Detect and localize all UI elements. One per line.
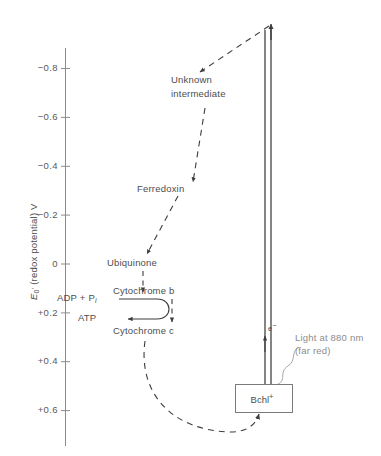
arrow-ferredoxin-to-ubiquinone [147,196,178,254]
y-axis [61,48,70,446]
tick-label-plus-0-2: +0.2 [12,307,58,318]
tick-label-plus-0-4: +0.4 [12,355,58,366]
node-ubiquinone: Ubiquinone [107,257,157,268]
tick-label-minus-0-6: −0.6 [12,111,58,122]
node-cytochrome-c: Cytochrome c [113,325,174,336]
node-cytochrome-b: Cytochrome b [113,285,175,296]
light-source-label: Light at 880 nm (far red) [295,331,364,357]
bchl-label: Bchl+ [251,392,274,405]
light-line1: Light at 880 nm [295,331,364,344]
label-adp-pi: ADP + Pi [57,292,97,304]
node-unknown-intermediate-line1: Unknown [171,74,212,85]
atp-synthesis-loop [119,299,169,319]
node-unknown-intermediate-line2: intermediate [171,88,226,99]
label-atp: ATP [78,312,96,323]
electron-label: e− [268,322,276,333]
bchl-charge: + [269,392,273,401]
arrow-excited-to-unknown [200,26,269,72]
tick-label-minus-0-2: −0.2 [12,209,58,220]
adp-pi-subscript: i [95,297,97,304]
tick-label-minus-0-8: −0.8 [12,62,58,73]
bchl-name: Bchl [251,394,269,405]
light-line2: (far red) [295,344,364,357]
tick-label-minus-0-4: −0.4 [12,160,58,171]
tick-label-zero: 0 [12,258,58,269]
node-ferredoxin: Ferredoxin [137,183,184,194]
electron-charge: − [272,322,276,329]
arrow-adp-to-atp [119,299,169,319]
redox-potential-diagram: E0' (redox potential) V −0.8 −0.6 −0.4 −… [0,0,381,456]
arrow-unknown-to-ferredoxin [193,108,205,182]
adp-pi-text: ADP + P [57,292,95,303]
tick-label-plus-0-6: +0.6 [12,404,58,415]
